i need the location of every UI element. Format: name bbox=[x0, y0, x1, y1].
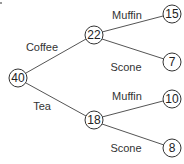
node-value: 8 bbox=[169, 141, 176, 155]
node-coffee-scone: 7 bbox=[163, 53, 181, 71]
edge-label-coffee-muffin: Muffin bbox=[112, 9, 142, 21]
tree-diagram: Coffee Tea Muffin Scone Muffin Scone 40 … bbox=[0, 0, 184, 164]
node-tea: 18 bbox=[85, 111, 103, 129]
node-value: 40 bbox=[11, 71, 25, 85]
node-value: 7 bbox=[169, 55, 176, 69]
edge-coffee-scone bbox=[102, 39, 164, 59]
edge-label-tea-scone: Scone bbox=[110, 142, 141, 154]
node-coffee-muffin: 15 bbox=[163, 5, 181, 23]
node-tea-muffin: 10 bbox=[163, 90, 181, 108]
node-coffee: 22 bbox=[85, 26, 103, 44]
node-tea-scone: 8 bbox=[163, 139, 181, 157]
edge-label-tea-muffin: Muffin bbox=[112, 90, 142, 102]
edge-tea-muffin bbox=[102, 101, 163, 117]
node-value: 22 bbox=[87, 28, 101, 42]
edge-label-coffee-scone: Scone bbox=[110, 61, 141, 73]
node-value: 10 bbox=[165, 92, 179, 106]
node-value: 18 bbox=[87, 113, 101, 127]
node-value: 15 bbox=[165, 7, 179, 21]
node-root: 40 bbox=[9, 69, 27, 87]
corner-mark bbox=[0, 2, 2, 4]
edge-label-tea: Tea bbox=[33, 100, 52, 112]
edge-label-coffee: Coffee bbox=[26, 41, 58, 53]
